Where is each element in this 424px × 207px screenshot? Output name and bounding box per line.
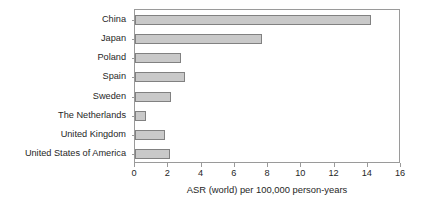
y-axis-label-row: Sweden bbox=[0, 86, 130, 105]
bar-united-states-of-america bbox=[135, 149, 170, 159]
y-axis-tick-label: China bbox=[102, 14, 126, 24]
bar-china bbox=[135, 15, 371, 25]
bar-the-netherlands bbox=[135, 111, 146, 121]
bar-row bbox=[135, 106, 399, 125]
bar-row bbox=[135, 126, 399, 145]
y-axis-label-row: Japan bbox=[0, 28, 130, 47]
x-axis-tick-mark bbox=[400, 163, 401, 167]
bar-chart-figure: China Japan Poland Spain Sweden The Neth… bbox=[0, 0, 424, 207]
bar-row bbox=[135, 145, 399, 164]
x-axis-tick-label: 8 bbox=[264, 168, 269, 179]
y-axis-label-row: China bbox=[0, 9, 130, 28]
bar-poland bbox=[135, 53, 181, 63]
x-axis-title: ASR (world) per 100,000 person-years bbox=[134, 184, 400, 196]
bar-row bbox=[135, 68, 399, 87]
x-axis-tick-label: 12 bbox=[328, 168, 338, 179]
plot-area bbox=[134, 9, 400, 163]
y-axis-tick-label: The Netherlands bbox=[58, 110, 126, 120]
bar-united-kingdom bbox=[135, 130, 165, 140]
x-axis-tick-mark bbox=[201, 163, 202, 167]
x-axis-tick-label: 16 bbox=[395, 168, 405, 179]
bar-row bbox=[135, 10, 399, 29]
x-axis-tick-mark bbox=[234, 163, 235, 167]
bar-row bbox=[135, 29, 399, 48]
bar-spain bbox=[135, 72, 185, 82]
x-axis-tick-label: 6 bbox=[231, 168, 236, 179]
y-axis-tick-label: Sweden bbox=[93, 91, 126, 101]
y-axis-label-row: Spain bbox=[0, 67, 130, 86]
y-axis-tick-label: Poland bbox=[97, 52, 126, 62]
y-axis-category-labels: China Japan Poland Spain Sweden The Neth… bbox=[0, 9, 130, 163]
y-axis-tick-label: Spain bbox=[103, 71, 127, 81]
x-axis-tick-label: 10 bbox=[295, 168, 305, 179]
x-axis-tick-mark bbox=[167, 163, 168, 167]
y-axis-label-row: The Netherlands bbox=[0, 105, 130, 124]
y-axis-label-row: United States of America bbox=[0, 144, 130, 163]
y-axis-tick-label: Japan bbox=[101, 33, 126, 43]
x-axis-tick-label: 2 bbox=[165, 168, 170, 179]
x-axis-tick-mark bbox=[134, 163, 135, 167]
x-axis: 0246810121416 bbox=[134, 163, 400, 185]
bar-japan bbox=[135, 34, 262, 44]
x-axis-tick-label: 14 bbox=[362, 168, 372, 179]
y-axis-label-row: Poland bbox=[0, 48, 130, 67]
bar-row bbox=[135, 87, 399, 106]
x-axis-tick-mark bbox=[334, 163, 335, 167]
x-axis-tick-mark bbox=[367, 163, 368, 167]
x-axis-tick-label: 0 bbox=[131, 168, 136, 179]
bar-row bbox=[135, 49, 399, 68]
bar-sweden bbox=[135, 92, 171, 102]
y-axis-tick-label: United Kingdom bbox=[61, 129, 126, 139]
y-axis-tick-label: United States of America bbox=[25, 148, 126, 158]
x-axis-tick-label: 4 bbox=[198, 168, 203, 179]
x-axis-tick-mark bbox=[300, 163, 301, 167]
y-axis-label-row: United Kingdom bbox=[0, 125, 130, 144]
x-axis-tick-mark bbox=[267, 163, 268, 167]
